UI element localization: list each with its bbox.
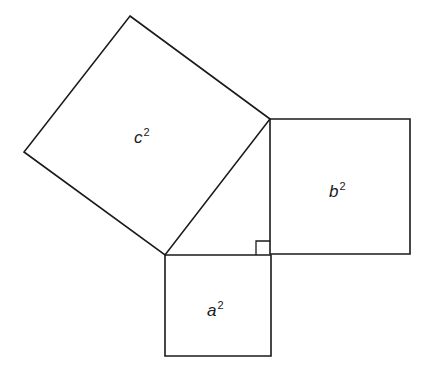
label-c-squared: c2 <box>134 127 150 146</box>
label-b-squared: b2 <box>329 181 346 200</box>
label-b-base: b <box>329 182 338 201</box>
right-angle-marker <box>256 241 270 255</box>
label-b-exponent: 2 <box>339 180 345 192</box>
label-a-squared: a2 <box>207 300 224 319</box>
label-a-base: a <box>207 301 216 320</box>
diagram-svg <box>0 0 432 379</box>
label-c-exponent: 2 <box>144 126 150 138</box>
pythagorean-diagram: c2 b2 a2 <box>0 0 432 379</box>
label-c-base: c <box>134 128 143 147</box>
label-a-exponent: 2 <box>217 299 223 311</box>
